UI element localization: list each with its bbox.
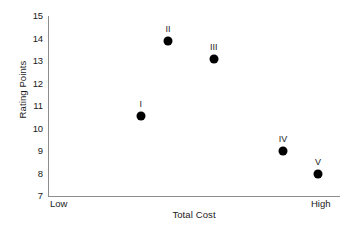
data-point[interactable] xyxy=(164,36,173,45)
data-point[interactable] xyxy=(136,112,145,121)
x-axis-line xyxy=(48,196,340,197)
y-axis-line xyxy=(48,16,49,197)
y-axis-tick-value: 15 xyxy=(0,11,43,21)
data-point-label: V xyxy=(315,158,321,167)
data-point[interactable] xyxy=(314,169,323,178)
x-axis-title: Total Cost xyxy=(48,209,340,220)
data-point-label: III xyxy=(210,43,218,52)
data-point-label: II xyxy=(165,25,170,34)
data-point-label: I xyxy=(140,100,143,109)
x-axis-high-label: High xyxy=(311,198,331,209)
y-axis-tick-value: 8 xyxy=(0,169,43,179)
data-point[interactable] xyxy=(279,147,288,156)
data-point-label: IV xyxy=(279,135,288,144)
data-point[interactable] xyxy=(209,54,218,63)
x-axis-low-label: Low xyxy=(50,198,67,209)
y-axis-tick-label: 15 xyxy=(0,11,43,21)
y-axis-tick-label: 8 xyxy=(0,169,43,179)
y-axis-tick-label: 7 xyxy=(0,191,43,201)
scatter-chart: 151413121110987 Rating Points IIIIIIIVV … xyxy=(0,0,348,229)
y-axis-tick-value: 7 xyxy=(0,191,43,201)
y-axis-title: Rating Points xyxy=(17,30,28,150)
